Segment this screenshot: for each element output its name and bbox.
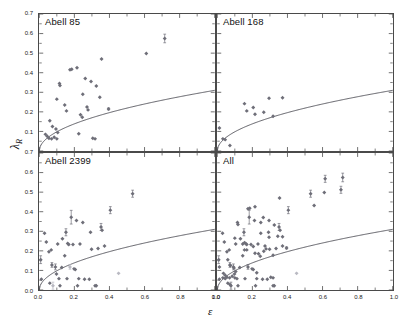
panel-all: All [216, 152, 394, 291]
x-tick-label: 0.0 [212, 294, 220, 300]
data-point-marker [254, 284, 258, 288]
data-point-marker [267, 230, 271, 234]
data-point-marker [96, 247, 100, 251]
y-axis-label-subscript: R [15, 139, 24, 144]
x-tick-label: 1.0 [390, 294, 398, 300]
data-point-marker [90, 247, 94, 251]
data-point-marker [98, 95, 102, 99]
data-point-marker [226, 258, 230, 262]
y-tick-label: 0.2 [25, 248, 35, 254]
data-point-marker [83, 77, 87, 81]
data-point-marker [312, 203, 316, 207]
data-point-marker [268, 247, 272, 251]
y-tick-label: 0.3 [25, 228, 35, 234]
data-point-marker [99, 225, 103, 229]
panel-title-all: All [223, 155, 234, 166]
data-point-marker [262, 110, 266, 114]
data-point-marker [75, 66, 79, 70]
plot-area-abell-168 [217, 14, 393, 151]
x-tick-label: 0.6 [319, 294, 327, 300]
y-tick-label: 0.1 [25, 268, 35, 274]
y-axis-ticks-bottom: 0.00.10.20.30.40.50.60.7 [0, 152, 35, 291]
data-point-marker [322, 191, 326, 195]
panel-abell-168: Abell 168 [216, 13, 394, 152]
data-point-marker [234, 242, 238, 246]
data-point-marker [89, 230, 93, 234]
x-tick-label: 0.8 [354, 294, 362, 300]
data-point-marker [53, 265, 57, 269]
data-point-marker [81, 92, 85, 96]
data-point-marker [255, 277, 259, 281]
data-point-marker [217, 265, 221, 269]
data-point-marker [78, 242, 82, 246]
data-point-marker [77, 277, 81, 281]
data-point-marker [274, 247, 278, 251]
data-point-marker [222, 240, 226, 244]
data-point-marker [81, 221, 85, 225]
data-point-marker [83, 277, 87, 281]
data-point-marker [253, 251, 257, 255]
x-axis-ticks-left: 0.00.20.40.60.81.0 [38, 294, 216, 306]
data-point-marker [39, 258, 43, 262]
data-point-marker [217, 258, 221, 262]
y-tick-label: 0.7 [25, 149, 35, 155]
data-point-marker [71, 243, 75, 247]
data-point-marker [64, 230, 68, 234]
data-point-marker [54, 127, 58, 131]
data-point-marker [131, 192, 135, 196]
x-tick-label: 0.2 [247, 294, 255, 300]
figure-lambdaR-vs-epsilon: 0.10.20.30.40.50.60.7 0.00.10.20.30.40.5… [0, 0, 413, 327]
data-point-marker [286, 208, 290, 212]
data-point-marker [75, 219, 79, 223]
data-point-marker [221, 231, 225, 235]
data-point-marker [265, 277, 269, 281]
x-axis-label: ε [208, 305, 212, 317]
y-tick-label: 0.2 [25, 109, 35, 115]
data-point-marker [51, 284, 55, 288]
data-point-marker [267, 96, 271, 100]
data-point-marker [243, 102, 247, 106]
data-point-marker [56, 242, 60, 246]
y-axis-label-text: λ [8, 144, 22, 149]
data-point-marker [228, 144, 232, 148]
data-point-marker [295, 271, 299, 275]
data-point-marker [65, 109, 69, 113]
y-tick-label: 0.5 [25, 189, 35, 195]
data-point-marker [247, 215, 251, 219]
fast-slow-rotator-divider-curve [39, 90, 214, 151]
y-tick-label: 0.3 [25, 89, 35, 95]
y-tick-label: 0.4 [25, 209, 35, 215]
data-point-marker [236, 284, 240, 288]
data-point-marker [103, 244, 107, 248]
data-point-marker [163, 36, 167, 40]
data-point-marker [242, 230, 246, 234]
panel-title-abell-168: Abell 168 [223, 16, 264, 27]
data-point-marker [87, 277, 91, 281]
data-point-marker [309, 192, 313, 196]
y-tick-label: 0.6 [25, 169, 35, 175]
data-point-marker [253, 219, 257, 223]
data-point-marker [48, 119, 52, 123]
y-tick-label: 0.1 [25, 129, 35, 135]
data-point-marker [57, 277, 61, 281]
data-point-marker [251, 106, 255, 110]
data-point-marker [281, 235, 285, 239]
y-tick-label: 0.4 [25, 70, 35, 76]
data-point-marker [261, 216, 265, 220]
x-tick-label: 0.8 [176, 294, 184, 300]
data-point-marker [253, 112, 257, 116]
fast-slow-rotator-divider-curve [39, 229, 214, 290]
data-point-marker [108, 208, 112, 212]
data-point-marker [63, 254, 67, 258]
data-point-marker [44, 240, 48, 244]
data-point-marker [58, 284, 62, 288]
y-tick-label: 0.7 [25, 10, 35, 16]
data-point-marker [238, 237, 242, 241]
y-axis-label: λR [8, 124, 24, 164]
data-point-marker [281, 244, 285, 248]
y-tick-label: 0.6 [25, 30, 35, 36]
data-point-marker [245, 248, 249, 252]
data-point-marker [233, 236, 237, 240]
data-point-marker [341, 175, 345, 179]
data-point-marker [43, 231, 47, 235]
